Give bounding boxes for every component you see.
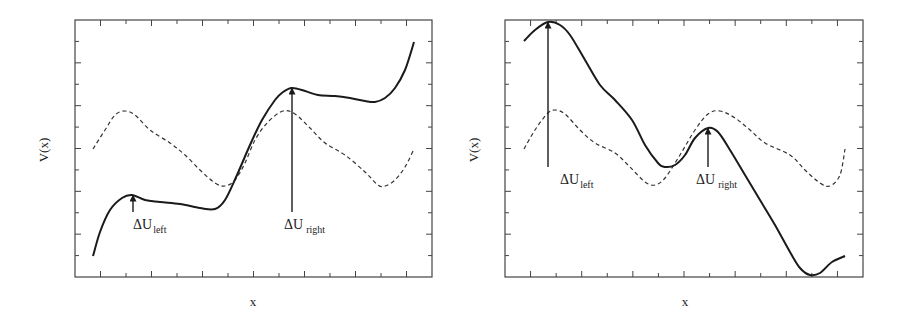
dashed-curve [93,111,414,187]
delta-u-label: ΔUright [696,172,737,190]
delta-u-label: ΔUleft [560,172,594,190]
right-chart: ΔUleftΔUright x V(x) [466,20,863,309]
y-axis-label: V(x) [36,138,51,163]
left-chart: ΔUleftΔUright x V(x) [36,20,432,309]
delta-u-label: ΔUleft [133,217,167,235]
y-axis-label: V(x) [466,138,481,163]
x-axis-label: x [682,294,689,309]
x-axis-label: x [250,294,257,309]
annotations: ΔUleftΔUright [548,23,737,190]
annotations: ΔUleftΔUright [133,89,325,235]
axis-ticks [75,20,432,277]
delta-u-label: ΔUright [284,217,325,235]
plot-frame [75,20,432,277]
figure: ΔUleftΔUright x V(x) ΔUleftΔUright x V(x… [0,0,902,313]
